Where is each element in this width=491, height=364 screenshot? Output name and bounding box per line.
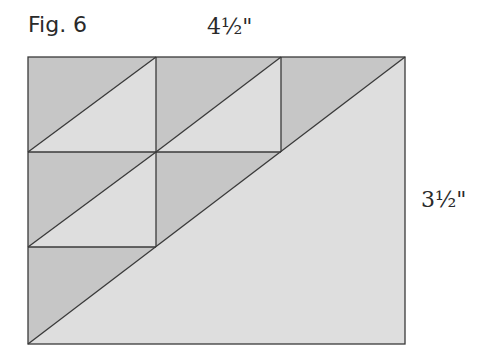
quilt-diagram [0,0,491,364]
